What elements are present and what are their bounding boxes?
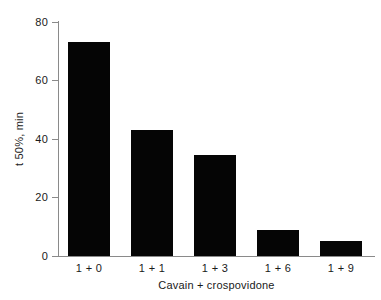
bar-chart-figure: t 50%, min 0 20 40 60 80 1 + 0 1 + 1 1 +… [0, 0, 381, 300]
y-axis-tick-label: 40 [8, 134, 48, 145]
y-axis-tick-label: 0 [8, 251, 48, 262]
x-axis-title: Cavain + crospovidone [58, 279, 375, 291]
y-axis-tick-label: 20 [8, 192, 48, 203]
x-axis-tick-label: 1 + 9 [310, 262, 372, 274]
x-axis-tick-label: 1 + 6 [247, 262, 309, 274]
bar [194, 155, 236, 256]
x-axis-tick-label: 1 + 1 [121, 262, 183, 274]
bar [131, 130, 173, 256]
x-axis-tick-label: 1 + 3 [184, 262, 246, 274]
x-axis-line [58, 256, 375, 257]
plot-area [58, 22, 375, 256]
y-axis-tick-label: 80 [8, 17, 48, 28]
bar [257, 230, 299, 256]
bar [68, 42, 110, 256]
x-axis-tick-label: 1 + 0 [58, 262, 120, 274]
bar [320, 241, 362, 256]
y-axis-tick-label: 60 [8, 75, 48, 86]
y-axis-tick [52, 256, 58, 257]
